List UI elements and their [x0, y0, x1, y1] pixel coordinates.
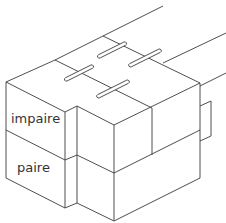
front-left-block	[6, 82, 77, 208]
slot-1	[97, 41, 127, 59]
center-blocks	[65, 106, 114, 221]
label-paire: paire	[17, 161, 50, 174]
slot-2	[128, 48, 162, 67]
slots	[64, 41, 162, 98]
label-impaire: impaire	[11, 112, 60, 125]
slot-4	[96, 79, 130, 98]
